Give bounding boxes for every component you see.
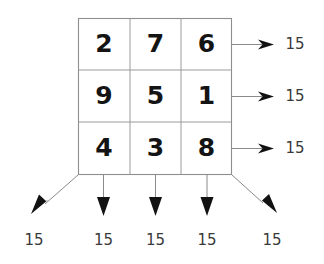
diagonal-sum-label-left: 15 (24, 231, 43, 249)
diagram-canvas: 2 7 6 9 5 1 4 3 8 15 15 15 15 15 15 (0, 0, 324, 264)
cell-r0-c1: 7 (147, 29, 164, 58)
cell-r2-c0: 4 (95, 133, 112, 162)
cell-r1-c2: 1 (198, 81, 215, 110)
diagonal-arrow-head-right (260, 194, 278, 213)
column-sum-label-2: 15 (146, 231, 165, 249)
diagonal-sum-label-right: 15 (262, 231, 281, 249)
column-arrow-head-1 (97, 197, 110, 216)
diagonal-arrow-line-right (232, 175, 263, 203)
column-arrow-head-3 (201, 197, 214, 216)
cell-r1-c1: 5 (147, 81, 164, 110)
cell-r2-c2: 8 (198, 133, 215, 162)
diagonal-arrow-line-left (45, 175, 78, 204)
column-arrow-head-2 (149, 197, 162, 216)
magic-square-figure: 2 7 6 9 5 1 4 3 8 15 15 15 15 15 15 (0, 0, 324, 264)
cell-r1-c0: 9 (95, 81, 112, 110)
row-sum-label-3: 15 (285, 139, 304, 157)
row-sum-label-2: 15 (285, 87, 304, 105)
row-sum-label-1: 15 (285, 35, 304, 53)
column-sum-label-1: 15 (94, 231, 113, 249)
column-sum-label-3: 15 (197, 231, 216, 249)
diagonal-arrow-head-left (31, 195, 49, 215)
cell-r0-c0: 2 (95, 29, 112, 58)
cell-r0-c2: 6 (198, 29, 215, 58)
cell-r2-c1: 3 (147, 133, 164, 162)
